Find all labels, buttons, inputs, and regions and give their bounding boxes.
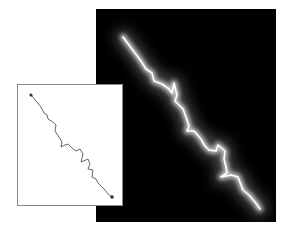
trace-panel — [17, 84, 123, 206]
traced-path-drawing — [18, 85, 124, 207]
end-point-marker — [110, 195, 114, 199]
start-point-marker — [29, 93, 32, 96]
traced-path-line — [31, 95, 112, 197]
